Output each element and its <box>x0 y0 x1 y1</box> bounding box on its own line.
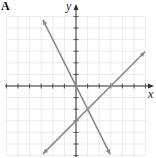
y-axis-label: y <box>66 0 71 14</box>
axes <box>5 4 154 157</box>
x-axis-label: x <box>148 87 153 102</box>
line-series-2 <box>43 52 145 154</box>
coordinate-plane <box>0 0 156 158</box>
plotted-lines <box>43 20 145 155</box>
